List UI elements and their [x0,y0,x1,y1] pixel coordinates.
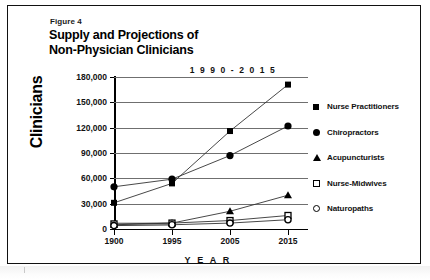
chart-subtitle: 1 9 9 0 - 2 0 1 5 [158,65,308,75]
chart-title-line-2: Non-Physician Clinicians [49,43,198,58]
y-axis-tick-label: 120,000 [59,123,107,133]
series-line [114,195,288,225]
filled-triangle-icon [313,154,327,161]
y-axis-tick-label: 60,000 [59,173,107,183]
figure-frame: Figure 4 Supply and Projections of Non-P… [7,5,421,264]
legend-item-label: Nurse-Midwives [327,179,387,188]
chart-title: Supply and Projections of Non-Physician … [49,28,198,57]
legend-item-label: Nurse Practitioners [327,102,399,111]
open-circle-icon [313,205,327,212]
figure-label: Figure 4 [50,17,82,26]
data-point-marker [285,82,291,88]
legend-item-label: Naturopaths [327,204,373,213]
plot-area [114,77,302,229]
data-point-marker [284,122,291,129]
legend-item[interactable]: Acupuncturists [313,153,384,162]
legend-item[interactable]: Chiropractors [313,128,379,137]
series-layer [114,77,302,229]
x-axis-tick-mark [114,230,115,235]
data-point-marker [110,183,117,190]
x-axis-tick-label: 2015 [266,236,310,246]
series-line [114,220,288,226]
legend-item[interactable]: Nurse-Midwives [313,179,387,188]
filled-circle-icon [313,129,327,136]
data-point-marker [226,152,233,159]
x-axis-title: Y E A R [108,255,308,265]
legend-item-label: Acupuncturists [327,153,384,162]
page-edge-artifact [0,266,430,280]
y-axis-tick-label: 0 [59,224,107,234]
gridline [114,229,308,230]
x-axis-tick-label: 1900 [92,236,136,246]
y-axis-tick-label: 180,000 [59,72,107,82]
data-point-marker [227,128,233,134]
data-point-marker [284,191,292,198]
data-point-marker [168,176,175,183]
y-axis-tick-label: 30,000 [59,199,107,209]
legend-item-label: Chiropractors [327,128,379,137]
series-line [114,85,288,203]
y-axis-tick-label: 150,000 [59,97,107,107]
chart-title-line-1: Supply and Projections of [49,28,198,43]
y-axis-tick-label: 90,000 [59,148,107,158]
legend-item[interactable]: Nurse Practitioners [313,102,399,111]
data-point-marker [111,223,117,229]
page-edge-tick-mark [24,267,25,273]
x-axis-tick-mark [288,230,289,235]
x-axis-tick-label: 2005 [208,236,252,246]
data-point-marker [111,200,117,206]
series-line [114,126,288,187]
data-point-marker [285,217,291,223]
legend-item[interactable]: Naturopaths [313,204,373,213]
y-axis-title: Clinicians [28,62,46,162]
x-axis-tick-mark [230,230,231,235]
x-axis-tick-mark [172,230,173,235]
x-axis-tick-label: 1995 [150,236,194,246]
filled-square-icon [313,104,327,110]
data-point-marker [169,222,175,228]
open-square-icon [313,180,327,187]
data-point-marker [227,220,233,226]
